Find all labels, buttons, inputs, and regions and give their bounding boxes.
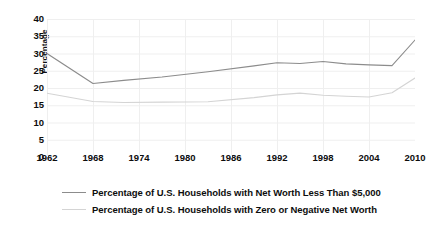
y-tick-30: 30 (18, 49, 44, 59)
y-tick-35: 35 (18, 32, 44, 42)
legend-item-0[interactable]: Percentage of U.S. Households with Net W… (0, 184, 427, 201)
plot-area (47, 19, 415, 157)
legend-label-series-2: Percentage of U.S. Households with Zero … (92, 204, 377, 215)
legend-swatch-series-2 (62, 209, 86, 210)
legend-swatch-series-1 (62, 192, 86, 193)
gridlines (47, 19, 415, 157)
y-tick-15: 15 (18, 101, 44, 111)
chart-legend: Percentage of U.S. Households with Net W… (0, 184, 427, 218)
y-tick-25: 25 (18, 66, 44, 76)
y-tick-40: 40 (18, 14, 44, 24)
y-tick-5: 5 (18, 135, 44, 145)
legend-item-1[interactable]: Percentage of U.S. Households with Zero … (0, 201, 427, 218)
legend-label-series-1: Percentage of U.S. Households with Net W… (92, 187, 381, 198)
line-chart: Percentage 4035302520151050 196219681974… (0, 0, 427, 227)
y-tick-10: 10 (18, 118, 44, 128)
y-tick-20: 20 (18, 83, 44, 93)
plot-svg (47, 19, 415, 157)
